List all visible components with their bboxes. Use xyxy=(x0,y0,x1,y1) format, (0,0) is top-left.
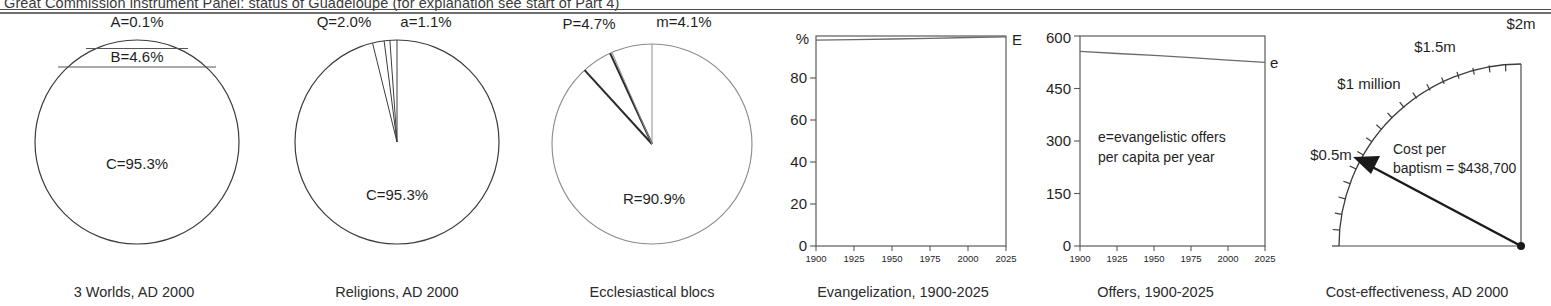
offers-note-line-1: e=evangelistic offers xyxy=(1098,129,1226,145)
instrument-panel-page: Great Commission instrument Panel: statu… xyxy=(0,0,1551,306)
offers-note-line-2: per capita per year xyxy=(1098,149,1215,165)
series-label-E: E xyxy=(1012,31,1022,48)
x-axis-label-1950: 1950 xyxy=(1143,253,1164,264)
three-worlds-pie-chart: A=0.1% B=4.6% C=95.3% xyxy=(0,14,268,284)
gauge-pivot xyxy=(1517,242,1525,250)
y-axis-unit-label: % xyxy=(796,30,809,47)
gauge-note-line-2: baptism = $438,700 xyxy=(1393,160,1517,176)
x-axis-label-1900: 1900 xyxy=(1069,253,1090,264)
slice-p-label: P=4.7% xyxy=(563,15,616,32)
evangelization-line-chart: 0 20 40 60 80 % 1900 1925 1950 1975 2000… xyxy=(778,14,1028,284)
y-axis-label-60: 60 xyxy=(790,111,807,128)
x-axis-label-1975: 1975 xyxy=(919,253,940,264)
y-axis-label-0: 0 xyxy=(1063,237,1071,254)
y-axis-label-300: 300 xyxy=(1046,132,1071,149)
panel-three-worlds: A=0.1% B=4.6% C=95.3% 3 Worlds, AD 2000 xyxy=(0,14,268,306)
header-divider-top xyxy=(0,9,1551,10)
panel-religions: Q=2.0% a=1.1% C=95.3% Religions, AD 2000 xyxy=(268,14,526,306)
x-axis-label-1900: 1900 xyxy=(805,253,826,264)
x-axis-label-2000: 2000 xyxy=(1217,253,1238,264)
slice-b-label: B=4.6% xyxy=(111,48,164,65)
series-line-E xyxy=(816,37,1006,40)
cost-effectiveness-gauge: $0.5m $1 million $1.5m $2m Cost per bapt… xyxy=(1283,14,1551,284)
x-axis-label-1950: 1950 xyxy=(881,253,902,264)
y-axis-label-40: 40 xyxy=(790,153,807,170)
panel-caption-cost-effectiveness: Cost-effectiveness, AD 2000 xyxy=(1283,284,1551,300)
panel-offers: 0 150 300 450 600 1900 1925 1950 1975 20… xyxy=(1028,14,1283,306)
gauge-needle-arrowhead xyxy=(1353,156,1380,174)
y-axis-label-20: 20 xyxy=(790,195,807,212)
gauge-tick-label-0-5m: $0.5m xyxy=(1310,146,1352,163)
panel-caption-three-worlds: 3 Worlds, AD 2000 xyxy=(0,284,268,300)
panel-caption-ecclesiastical-blocs: Ecclesiastical blocs xyxy=(526,284,778,300)
slice-r-label: R=90.9% xyxy=(623,190,685,207)
slice-c-label: C=95.3% xyxy=(366,186,428,203)
wedge-m-edge-start xyxy=(612,53,652,145)
x-axis-label-2025: 2025 xyxy=(995,253,1016,264)
panel-caption-religions: Religions, AD 2000 xyxy=(268,284,526,300)
gauge-tick-label-1m: $1 million xyxy=(1337,75,1400,92)
slice-m-label: m=4.1% xyxy=(656,14,711,30)
panel-cost-effectiveness: $0.5m $1 million $1.5m $2m Cost per bapt… xyxy=(1283,14,1551,306)
y-axis-label-80: 80 xyxy=(790,69,807,86)
gauge-tick-label-2m: $2m xyxy=(1506,15,1535,32)
x-axis-label-2025: 2025 xyxy=(1254,253,1275,264)
ecclesiastical-blocs-pie-chart: P=4.7% m=4.1% R=90.9% xyxy=(526,14,778,284)
slice-a-label: A=0.1% xyxy=(111,14,164,30)
series-line-e xyxy=(1080,51,1265,62)
y-axis-label-150: 150 xyxy=(1046,185,1071,202)
slice-q-label: Q=2.0% xyxy=(317,14,372,30)
slice-c-label: C=95.3% xyxy=(106,155,168,172)
gauge-note-line-1: Cost per xyxy=(1393,141,1446,157)
slice-a-label: a=1.1% xyxy=(400,14,451,30)
y-axis-label-0: 0 xyxy=(799,237,807,254)
series-label-e: e xyxy=(1270,54,1278,71)
panel-evangelization: 0 20 40 60 80 % 1900 1925 1950 1975 2000… xyxy=(778,14,1028,306)
religions-pie-chart: Q=2.0% a=1.1% C=95.3% xyxy=(268,14,526,284)
x-axis-label-1975: 1975 xyxy=(1180,253,1201,264)
pie-outline xyxy=(35,40,239,244)
wedge-p-edge-start xyxy=(585,70,652,144)
y-axis-label-450: 450 xyxy=(1046,80,1071,97)
panel-caption-evangelization: Evangelization, 1900-2025 xyxy=(778,284,1028,300)
offers-line-chart: 0 150 300 450 600 1900 1925 1950 1975 20… xyxy=(1028,14,1283,284)
panel-ecclesiastical-blocs: P=4.7% m=4.1% R=90.9% Ecclesiastical blo… xyxy=(526,14,778,306)
x-axis-label-2000: 2000 xyxy=(957,253,978,264)
x-axis-label-1925: 1925 xyxy=(1106,253,1127,264)
x-axis-label-1925: 1925 xyxy=(843,253,864,264)
panel-caption-offers: Offers, 1900-2025 xyxy=(1028,284,1283,300)
plot-frame xyxy=(816,36,1006,246)
y-axis-label-600: 600 xyxy=(1046,29,1071,46)
gauge-tick-label-1-5m: $1.5m xyxy=(1414,38,1456,55)
